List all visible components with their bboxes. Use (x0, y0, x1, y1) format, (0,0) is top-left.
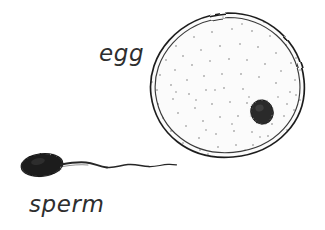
egg-cell (151, 13, 305, 157)
label-egg: egg (99, 42, 144, 65)
figure-canvas: egg sperm (0, 0, 325, 230)
sperm-cell (20, 152, 177, 179)
label-sperm: sperm (29, 193, 105, 216)
sperm-tail (61, 162, 177, 167)
sperm-head (20, 152, 64, 179)
